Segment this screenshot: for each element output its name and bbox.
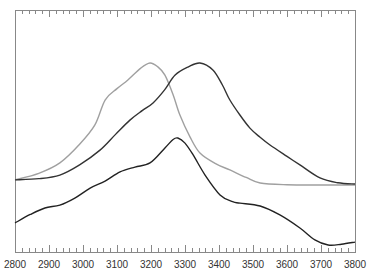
gray-curve <box>15 63 355 185</box>
x-tick-label: 3800 <box>344 259 367 270</box>
dark-lower-curve <box>15 138 355 245</box>
x-tick-label: 3600 <box>276 259 299 270</box>
data-series <box>15 63 355 245</box>
dark-upper-curve <box>15 63 355 184</box>
x-tick-label: 2900 <box>38 259 61 270</box>
plot-frame <box>16 11 356 253</box>
x-tick-label: 3300 <box>174 259 197 270</box>
x-tick-label: 3700 <box>310 259 333 270</box>
spectrum-chart: 2800290030003100320033003400350036003700… <box>0 0 373 279</box>
x-tick-label: 3000 <box>72 259 95 270</box>
top-tick-marks <box>16 10 356 17</box>
x-tick-label: 3400 <box>208 259 231 270</box>
x-tick-label: 3200 <box>140 259 163 270</box>
bottom-tick-marks <box>16 245 356 252</box>
x-tick-label: 3500 <box>242 259 265 270</box>
x-axis-tick-labels: 2800290030003100320033003400350036003700… <box>4 259 367 270</box>
x-tick-label: 3100 <box>106 259 129 270</box>
x-tick-label: 2800 <box>4 259 27 270</box>
